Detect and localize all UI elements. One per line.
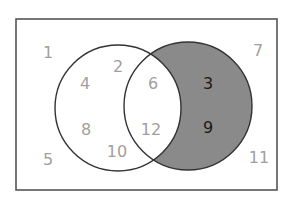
number-10: 10: [107, 142, 127, 161]
venn-diagram: 1 5 7 11 2 4 8 10 6 12 3 9: [0, 0, 308, 209]
number-9: 9: [203, 118, 213, 137]
number-7: 7: [253, 41, 263, 60]
number-12: 12: [141, 120, 161, 139]
number-1: 1: [43, 43, 53, 62]
number-6: 6: [148, 74, 158, 93]
number-11: 11: [249, 148, 269, 167]
number-5: 5: [43, 150, 53, 169]
number-2: 2: [113, 57, 123, 76]
number-3: 3: [203, 74, 213, 93]
number-4: 4: [80, 74, 90, 93]
number-8: 8: [81, 120, 91, 139]
